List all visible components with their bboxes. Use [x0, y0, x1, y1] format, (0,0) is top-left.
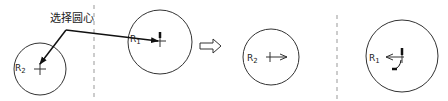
select-center-arrows: [40, 30, 158, 64]
diagram-canvas: 选择圆心 R2 R1 R2 R1: [0, 0, 448, 101]
left-r2-label: R2: [15, 63, 26, 75]
annotation-label: 选择圆心: [50, 11, 94, 25]
right-r1-label: R1: [369, 53, 380, 65]
left-r1-label: R1: [130, 34, 141, 46]
right-r2-label: R2: [247, 53, 258, 65]
hollow-right-arrow-icon: [200, 39, 221, 53]
right-circle-r1: [366, 20, 438, 92]
